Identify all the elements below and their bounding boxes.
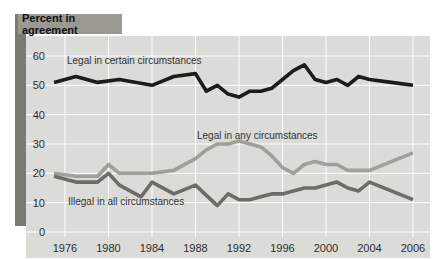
- x-axis-tick-label: 2004: [357, 242, 381, 254]
- x-axis-tick-label: 1988: [183, 242, 207, 254]
- x-axis-tick-label: 2006: [401, 242, 425, 254]
- x-axis-tick-label: 1976: [53, 242, 77, 254]
- y-axis-tick-label: 60: [33, 50, 45, 62]
- y-axis-tick-label: 30: [33, 138, 45, 150]
- series-label-legal-in-certain-circumstances: Legal in certain circumstances: [67, 55, 202, 66]
- y-axis-tick-label: 50: [33, 79, 45, 91]
- series-label-illegal-in-all-circumstances: Illegal in all circumstances: [68, 196, 184, 207]
- chart-title-chip: Percent in agreement: [18, 14, 122, 34]
- y-axis-tick-label: 40: [33, 109, 45, 121]
- x-axis-tick-label: 1980: [96, 242, 120, 254]
- series-label-legal-in-any-circumstances: Legal in any circumstances: [197, 130, 318, 141]
- y-axis-tick-label: 0: [39, 226, 45, 238]
- x-axis-tick-label: 1996: [270, 242, 294, 254]
- x-axis-tick-label: 1984: [140, 242, 164, 254]
- chart-title: Percent in agreement: [18, 12, 122, 36]
- y-axis-tick-label: 10: [33, 197, 45, 209]
- x-axis-tick-label: 1992: [227, 242, 251, 254]
- x-axis-tick-label: 2000: [314, 242, 338, 254]
- poll-trend-line-chart: 0102030405060197619801984198819921996200…: [0, 0, 437, 260]
- figure-canvas: 0102030405060197619801984198819921996200…: [0, 0, 437, 260]
- y-axis-tick-label: 20: [33, 167, 45, 179]
